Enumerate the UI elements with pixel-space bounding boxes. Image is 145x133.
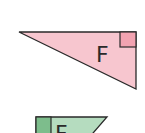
green-right-angle-marker	[36, 117, 51, 133]
triangle-f-body	[19, 32, 136, 89]
triangle-f-label: F	[96, 42, 109, 67]
right-angle-marker	[120, 32, 136, 47]
green-shape: F	[36, 117, 107, 133]
green-shape-label: F	[55, 121, 68, 133]
triangle-f: F	[19, 32, 136, 89]
diagram-canvas: F F	[0, 0, 145, 133]
